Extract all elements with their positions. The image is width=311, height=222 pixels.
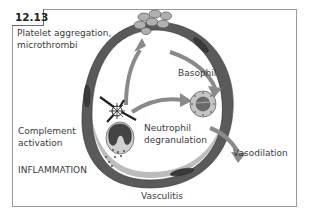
complement-complex — [100, 97, 136, 122]
basophil-cell — [190, 91, 216, 117]
label-microthrombi: microthrombi — [17, 40, 77, 51]
label-inflammation: INFLAMMATION — [18, 165, 87, 176]
label-vasodilation: Vasodilation — [233, 148, 288, 159]
label-neutrophil: Neutrophil — [144, 123, 191, 134]
label-degranulation: degranulation — [144, 135, 207, 146]
label-basophil: Basophil — [178, 68, 216, 79]
label-activation: activation — [18, 138, 63, 149]
arrow-to-platelets — [126, 50, 140, 105]
arrow-to-basophil — [132, 99, 182, 112]
figure-number: 12.13 — [12, 9, 44, 26]
label-complement: Complement — [18, 126, 76, 137]
endothelial-nucleus-left — [84, 85, 90, 107]
label-platelet-aggregation: Platelet aggregation, — [17, 28, 111, 39]
label-vasculitis: Vasculitis — [141, 191, 183, 202]
